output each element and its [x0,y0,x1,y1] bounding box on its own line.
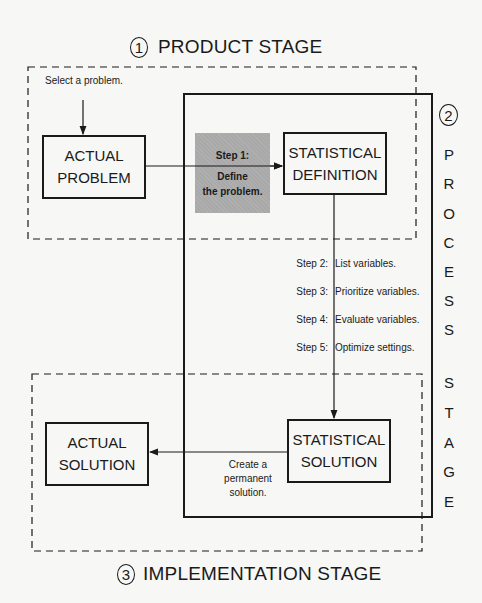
actual-problem-box: ACTUAL PROBLEM [42,135,146,199]
stage-number-badge: 1 [130,37,148,58]
step-text: Optimize settings. [332,342,414,353]
process-stage-letter: E [439,493,459,510]
step1-label: Step 1: [216,148,249,163]
product-stage-label: PRODUCT STAGE [158,36,322,58]
actual-solution-box: ACTUAL SOLUTION [45,422,149,486]
step-label: Step 4: [282,314,332,325]
implementation-stage-title: 3 IMPLEMENTATION STAGE [117,563,381,585]
box-line: PROBLEM [57,167,130,189]
select-problem-note: Select a problem. [45,75,123,86]
step1-box: Step 1: Define the problem. [195,133,270,213]
process-stage-letter: S [439,321,459,338]
stage-number-badge: 3 [117,564,135,585]
process-stage-letter: C [439,234,459,251]
product-stage-title: 1 PRODUCT STAGE [130,36,322,58]
step-row: Step 4: Evaluate variables. [282,314,420,325]
process-stage-letter: O [439,205,459,222]
process-stage-letter: S [439,292,459,309]
implementation-stage-label: IMPLEMENTATION STAGE [143,563,381,585]
box-line: ACTUAL [64,145,123,167]
diagram-lines [0,0,482,603]
box-line: STATISTICAL [289,142,382,164]
process-stage-letter: E [439,263,459,280]
step-row: Step 2: List variables. [282,258,396,269]
process-stage-letter: T [439,404,459,421]
step-text: List variables. [332,258,396,269]
box-line: DEFINITION [293,164,378,186]
process-stage-letter: P [439,146,459,163]
step-text: Prioritize variables. [332,286,419,297]
note-line: Create a [218,458,278,472]
box-line: SOLUTION [301,451,378,473]
box-line: STATISTICAL [293,429,386,451]
step-label: Step 2: [282,258,332,269]
statistical-solution-box: STATISTICAL SOLUTION [287,419,391,483]
step-label: Step 5: [282,342,332,353]
step-row: Step 5: Optimize settings. [282,342,414,353]
step-row: Step 3: Prioritize variables. [282,286,419,297]
box-line: SOLUTION [59,454,136,476]
process-stage-letter: R [439,175,459,192]
permanent-solution-note: Create a permanent solution. [218,458,278,500]
process-stage-letter: A [439,434,459,451]
process-stage-letter: G [439,463,459,480]
statistical-definition-box: STATISTICAL DEFINITION [283,132,387,195]
note-line: solution. [218,486,278,500]
step-label: Step 3: [282,286,332,297]
step1-text: the problem. [202,184,262,199]
step1-text: Define [217,169,248,184]
note-line: permanent [218,472,278,486]
step-text: Evaluate variables. [332,314,420,325]
process-stage-number-badge: 2 [439,104,458,126]
box-line: ACTUAL [67,432,126,454]
process-stage-letter: S [439,374,459,391]
